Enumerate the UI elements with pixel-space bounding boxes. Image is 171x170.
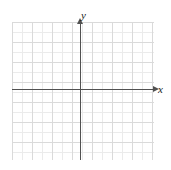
x-axis-label: x <box>158 84 163 95</box>
coordinate-grid-figure: x y <box>0 0 171 170</box>
y-axis-label: y <box>81 10 86 21</box>
y-axis-line <box>80 24 81 160</box>
x-axis-line <box>12 89 153 90</box>
grid-background <box>12 22 154 160</box>
